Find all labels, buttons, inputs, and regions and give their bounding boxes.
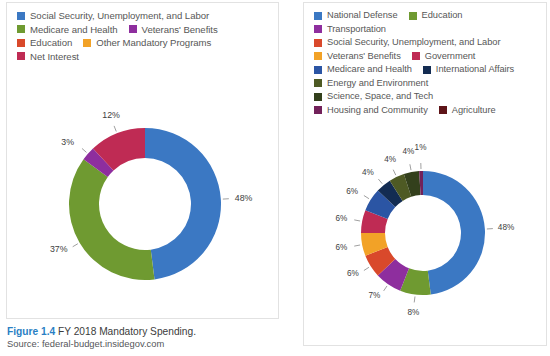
figure-number: Figure 1.4 (7, 326, 55, 337)
leader-line (393, 170, 396, 175)
left-chart-panel: Social Security, Unemployment, and Labor… (6, 2, 279, 319)
segment-percent-label: 4% (402, 147, 414, 156)
leader-line (410, 164, 411, 170)
leader-line (414, 296, 415, 302)
leader-line (354, 220, 360, 221)
donut-segment[interactable] (423, 171, 485, 295)
donut-left-svg: 48%37%3%12% (1, 1, 274, 318)
segment-percent-label: 8% (408, 308, 420, 317)
leader-line (114, 126, 116, 132)
figure-source: Source: federal-budget.insidegov.com (7, 338, 297, 350)
segment-percent-label: 37% (50, 244, 68, 254)
segment-percent-label: 6% (336, 243, 348, 252)
segment-percent-label: 7% (368, 291, 380, 300)
segment-percent-label: 3% (61, 137, 74, 147)
segment-percent-label: 48% (235, 193, 253, 203)
leader-line (354, 245, 360, 246)
segment-percent-label: 6% (346, 187, 358, 196)
donut-segment[interactable] (69, 159, 155, 280)
donut-segment[interactable] (145, 128, 221, 279)
leader-line (82, 148, 87, 152)
leader-line (364, 267, 369, 270)
segment-percent-label: 4% (384, 155, 396, 164)
figure-caption: Figure 1.4 FY 2018 Mandatory Spending. S… (7, 325, 297, 350)
figure-title: FY 2018 Mandatory Spending. (58, 326, 196, 337)
segment-percent-label: 6% (347, 269, 359, 278)
leader-line (364, 195, 369, 198)
right-chart-panel: National DefenseEducationTransportationS… (303, 2, 547, 346)
caption-title-line: Figure 1.4 FY 2018 Mandatory Spending. (7, 325, 297, 338)
leader-line (384, 286, 387, 291)
mandatory-spending-donut-chart: 48%37%3%12% (1, 1, 274, 318)
leader-line (73, 244, 78, 247)
spending-breakdown-donut-chart: 48%8%7%6%6%6%6%4%4%4%1% (301, 1, 545, 345)
segment-percent-label: 1% (415, 143, 427, 152)
leader-line (378, 179, 382, 184)
donut-right-svg: 48%8%7%6%6%6%6%4%4%4%1% (301, 1, 545, 345)
segment-percent-label: 48% (498, 223, 514, 232)
segment-percent-label: 12% (102, 110, 120, 120)
segment-percent-label: 4% (362, 168, 374, 177)
segment-percent-label: 6% (336, 214, 348, 223)
